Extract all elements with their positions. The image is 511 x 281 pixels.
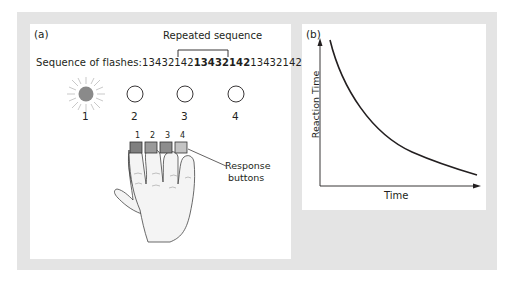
response-label-line1: Response (225, 160, 271, 171)
response-button-1 (130, 142, 142, 153)
panel-a: (a) Repeated sequence Sequence of flashe… (30, 24, 291, 259)
panel-b: (b) Reaction Time Time (302, 24, 486, 210)
response-button-3 (160, 142, 172, 153)
response-button-4 (175, 142, 187, 153)
response-button-2 (145, 142, 157, 153)
y-axis-label: Reaction Time (310, 70, 321, 140)
x-axis-arrow-icon (473, 184, 481, 189)
reaction-time-chart (302, 24, 486, 210)
y-axis-arrow-icon (318, 38, 323, 46)
x-axis-label: Time (384, 190, 408, 201)
response-label-line2: buttons (228, 172, 264, 183)
reaction-curve (330, 40, 477, 175)
hand-illustration (30, 24, 291, 259)
